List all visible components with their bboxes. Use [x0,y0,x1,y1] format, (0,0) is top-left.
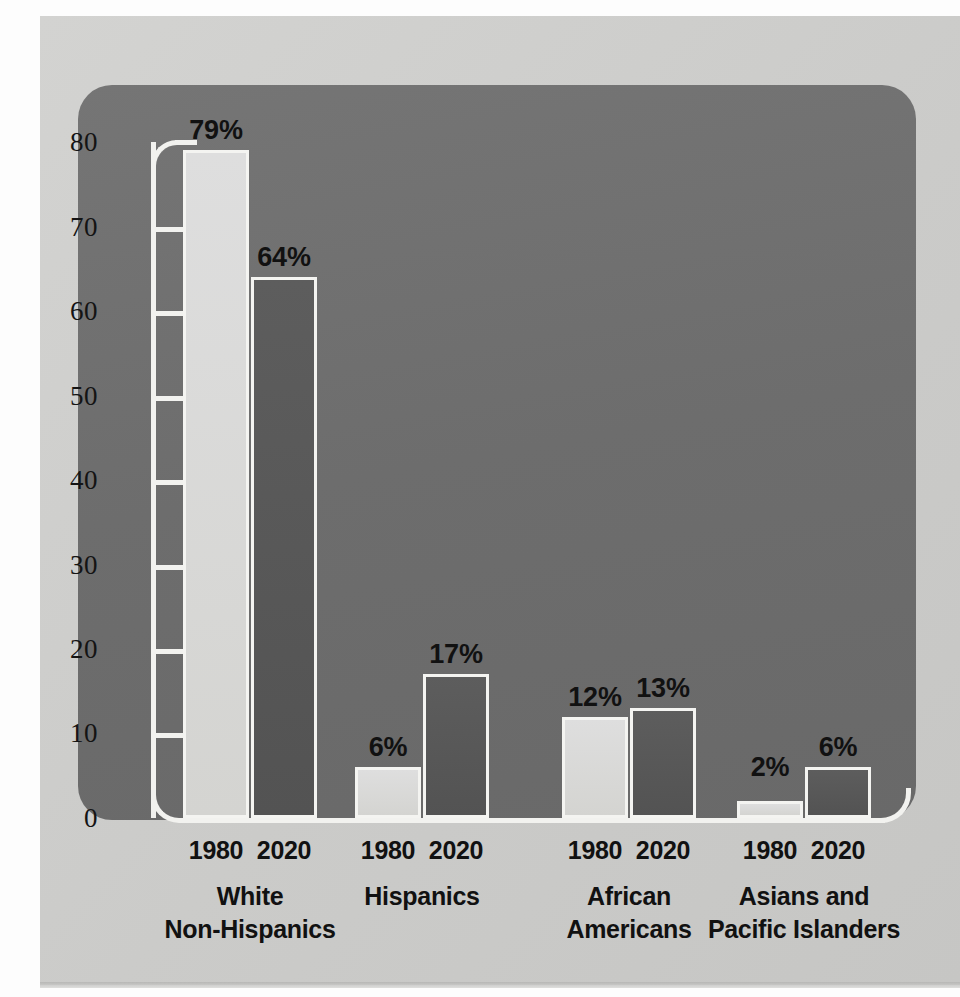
paper-bottom-shadow [40,982,960,988]
chart-page: 80 70 60 50 40 30 20 10 0 79% 64% 1980 2… [0,0,960,997]
plot-panel [78,85,916,820]
